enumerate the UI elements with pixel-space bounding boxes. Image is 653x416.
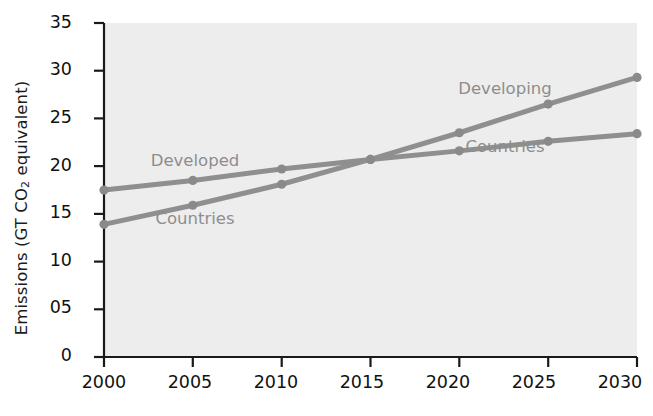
data-point [277,180,286,189]
data-point [366,155,375,164]
data-point [277,164,286,173]
annotation-developed-line2: Countries [120,209,270,228]
data-point [99,220,108,229]
emissions-line-chart: Emissions (GT CO2 equivalent) 35 30 25 2… [0,0,653,416]
x-axis-ticks [104,357,637,367]
annotation-developed-line1: Developed [120,151,270,170]
annotation-developed-countries: Developed Countries [120,112,270,268]
data-point [632,73,641,82]
annotation-developing-line2: Countries [425,137,585,156]
annotation-developing-line1: Developing [425,79,585,98]
annotation-developing-countries: Developing Countries [425,40,585,196]
data-point [99,185,108,194]
data-point [632,129,641,138]
